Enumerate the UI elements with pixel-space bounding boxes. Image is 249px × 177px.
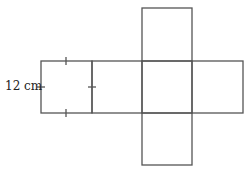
square-right — [192, 61, 243, 113]
square-left — [41, 61, 92, 113]
square-bottom — [142, 113, 192, 165]
square-center — [142, 61, 192, 113]
square-center-left — [92, 61, 142, 113]
side-length-label: 12 cm — [5, 79, 42, 93]
square-top — [142, 8, 192, 61]
